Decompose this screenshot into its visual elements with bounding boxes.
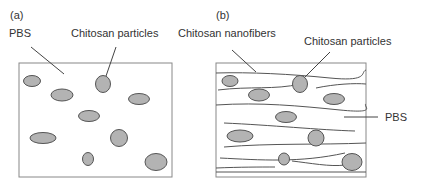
diagram-canvas	[0, 0, 421, 183]
panel-a	[19, 47, 172, 177]
panel-b	[216, 50, 378, 177]
